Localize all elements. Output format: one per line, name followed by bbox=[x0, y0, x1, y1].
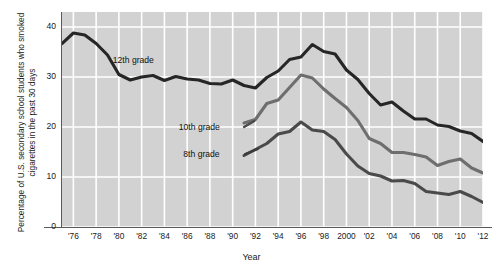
series-line-12th-grade bbox=[62, 33, 483, 142]
y-tick-label: 40 bbox=[34, 21, 56, 31]
plot-area bbox=[62, 12, 483, 227]
series-label-8th-grade: 8th grade bbox=[183, 149, 219, 159]
y-axis-line bbox=[61, 12, 62, 228]
y-tick-label: 10 bbox=[34, 171, 56, 181]
y-tick-label: 0 bbox=[34, 221, 56, 231]
series-label-10th-grade: 10th grade bbox=[179, 122, 220, 132]
x-axis-title: Year bbox=[0, 252, 503, 262]
x-axis-line bbox=[44, 227, 492, 228]
series-label-12th-grade: 12th grade bbox=[113, 55, 154, 65]
smoking-trend-line-chart: Percentage of U.S. secondary school stud… bbox=[0, 0, 503, 274]
x-tick-label: '12 bbox=[468, 231, 498, 241]
series-line-10th-grade bbox=[244, 75, 483, 173]
plot-svg bbox=[62, 12, 483, 227]
y-tick-label: 20 bbox=[34, 121, 56, 131]
y-tick-label: 30 bbox=[34, 71, 56, 81]
